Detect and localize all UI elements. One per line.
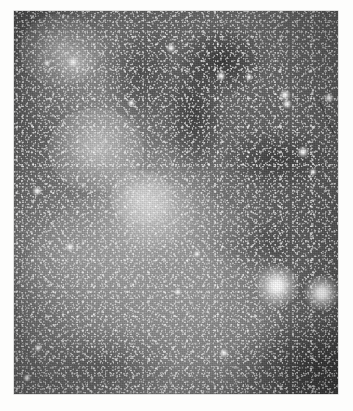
astrophotograph-plate [14,11,338,394]
vignette-layer [14,11,338,394]
page-canvas [0,0,353,411]
